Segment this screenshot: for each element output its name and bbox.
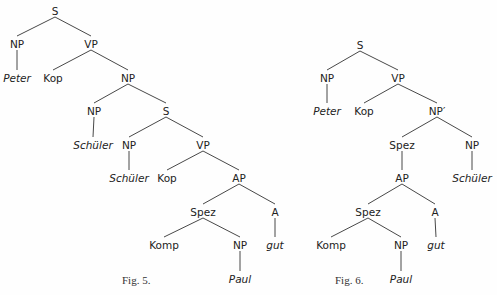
- tree-diagram: SNPVPPeterKopNPNPSSchülerNPVPSchülerKopA…: [0, 0, 497, 295]
- tree-node: NP: [320, 72, 334, 84]
- tree-node: Schüler: [109, 172, 149, 184]
- tree-edge: [166, 117, 203, 137]
- tree-node: NP: [87, 105, 101, 117]
- tree-node: AP: [395, 172, 409, 184]
- tree-node: NP′: [429, 105, 446, 117]
- tree-node: Kop: [43, 72, 63, 84]
- tree-node: Spez: [190, 206, 216, 218]
- tree-edge: [360, 51, 398, 70]
- tree-node: NP: [121, 72, 135, 84]
- tree-edge: [368, 184, 402, 204]
- tree-node: A: [431, 206, 439, 218]
- tree-node: gut: [427, 239, 445, 251]
- tree-node: AP: [232, 172, 246, 184]
- tree-node: Schüler: [73, 139, 113, 151]
- tree-edge: [402, 184, 435, 204]
- tree-node: NP: [122, 139, 136, 151]
- tree-node: VP: [391, 72, 405, 84]
- tree-node: Komp: [316, 239, 346, 251]
- tree-edge: [128, 84, 166, 103]
- tree-node: Kop: [354, 105, 374, 117]
- tree-edge: [55, 17, 91, 36]
- tree-edge: [167, 151, 203, 170]
- tree-node: NP: [10, 38, 24, 50]
- figure-6: SNPVPPeterKopNP′SpezNPAPSchülerSpezAKomp…: [313, 39, 492, 286]
- tree-edge: [91, 50, 128, 70]
- tree-node: VP: [84, 38, 98, 50]
- tree-edge: [129, 117, 166, 137]
- tree-node: Schüler: [452, 172, 492, 184]
- tree-edge: [94, 84, 128, 103]
- tree-node: Komp: [149, 239, 179, 251]
- tree-edge: [239, 184, 275, 204]
- tree-node: Peter: [313, 105, 341, 117]
- tree-node: NP: [465, 139, 479, 151]
- tree-edge: [17, 17, 55, 36]
- tree-edge: [437, 117, 472, 137]
- tree-node: S: [163, 105, 170, 117]
- tree-node: Paul: [390, 273, 412, 285]
- tree-edge: [203, 184, 239, 204]
- tree-edge: [203, 151, 239, 170]
- tree-edge: [331, 218, 368, 237]
- tree-node: S: [52, 5, 59, 17]
- tree-edge: [435, 218, 436, 237]
- tree-node: NP: [233, 239, 247, 251]
- tree-node: NP: [394, 239, 408, 251]
- tree-edge: [398, 84, 437, 103]
- tree-edge: [368, 218, 401, 237]
- figure-caption: Fig. 6.: [335, 274, 364, 286]
- tree-node: gut: [266, 239, 284, 251]
- syntax-tree-figures: SNPVPPeterKopNPNPSSchülerNPVPSchülerKopA…: [0, 0, 497, 295]
- figure-5: SNPVPPeterKopNPNPSSchülerNPVPSchülerKopA…: [3, 5, 284, 286]
- tree-node: VP: [196, 139, 210, 151]
- tree-edge: [327, 51, 360, 70]
- tree-node: Spez: [355, 206, 381, 218]
- tree-node: Kop: [157, 172, 177, 184]
- tree-node: Peter: [3, 72, 31, 84]
- tree-edge: [93, 117, 94, 137]
- tree-node: A: [271, 206, 279, 218]
- tree-edge: [203, 218, 240, 237]
- figure-caption: Fig. 5.: [122, 274, 151, 286]
- tree-node: Paul: [229, 273, 251, 285]
- tree-node: Spez: [389, 139, 415, 151]
- tree-edge: [53, 50, 91, 70]
- tree-edge: [402, 117, 437, 137]
- tree-edge: [364, 84, 398, 103]
- tree-edge: [164, 218, 203, 237]
- tree-node: S: [357, 39, 364, 51]
